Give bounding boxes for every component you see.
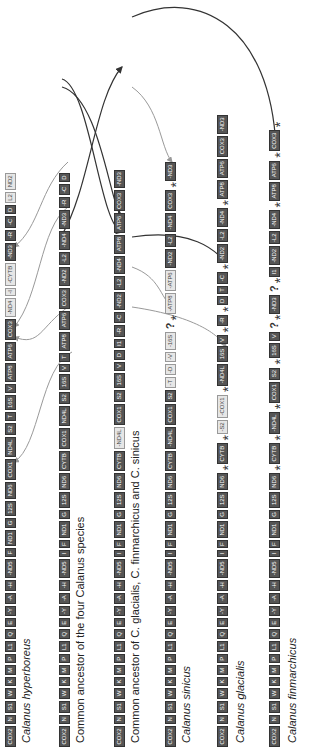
- gene-box: CYTB: [269, 443, 280, 464]
- gene-box: -ND4: [5, 298, 16, 317]
- gene-box: S2: [5, 423, 16, 435]
- species-label: Calanus sinicus: [180, 666, 192, 743]
- gene-box: -D: [165, 364, 176, 375]
- arrow-dark: [132, 235, 226, 262]
- gene-box: ATP8: [5, 363, 16, 382]
- gene-box: CYTB: [165, 451, 176, 472]
- asterisk-marker: *: [224, 435, 232, 440]
- gene-box: ND6: [269, 474, 280, 491]
- gene-box: -ND5: [59, 559, 70, 578]
- gene-box: S1: [165, 701, 176, 713]
- gene-box: -ND4: [165, 213, 176, 232]
- gene-box: -CYTB: [5, 263, 16, 286]
- gene-box: 16S: [114, 373, 125, 388]
- gene-box: -A: [269, 593, 280, 604]
- gene-row-glacialis: COX2NS1WKMPL1QE-Y-A-H-ND5IFND1G12SND6*CY…: [216, 113, 228, 747]
- gene-box: Q: [114, 629, 125, 639]
- gene-box: -ND4: [269, 210, 280, 229]
- arrow-dark: [132, 7, 276, 147]
- gene-box: -ND4: [217, 208, 228, 227]
- gene-box: V: [217, 336, 228, 345]
- unknown-marker: ?: [268, 322, 280, 329]
- gene-box: -ND2: [114, 292, 125, 311]
- gene-box: S2: [269, 368, 280, 380]
- gene-box: -ND3: [217, 115, 228, 134]
- gene-box: F: [114, 540, 125, 549]
- gene-box: G: [114, 510, 125, 520]
- gene-box: S1: [59, 701, 70, 713]
- gene-box: I: [269, 550, 280, 557]
- asterisk-marker: *: [224, 306, 232, 311]
- gene-box: S1: [114, 701, 125, 713]
- gene-box: -COX1: [217, 395, 228, 418]
- unknown-marker: ?: [268, 285, 280, 292]
- asterisk-marker: *: [224, 327, 232, 332]
- gene-box: P: [217, 654, 228, 663]
- asterisk-marker: *: [276, 435, 284, 440]
- gene-box: COX3: [165, 190, 176, 211]
- gene-box: S1: [269, 701, 280, 713]
- gene-box: ND1: [114, 521, 125, 538]
- gene-box: -H: [217, 580, 228, 591]
- gene-box: -ND5: [269, 559, 280, 578]
- gene-box: G: [5, 518, 16, 528]
- gene-box: M: [269, 665, 280, 675]
- gene-box: -A: [217, 593, 228, 604]
- gene-box: -C: [217, 273, 228, 284]
- gene-box: S2: [114, 390, 125, 402]
- gene-box: -H: [5, 580, 16, 591]
- gene-box: -C: [114, 312, 125, 323]
- gene-box: W: [59, 688, 70, 699]
- gene-box: COX2: [217, 726, 228, 747]
- asterisk-marker: *: [224, 465, 232, 470]
- gene-box: COX2: [165, 726, 176, 747]
- gene-box: ND6: [165, 474, 176, 491]
- gene-box: -A: [114, 593, 125, 604]
- gene-box: I: [114, 550, 125, 557]
- asterisk-marker: *: [172, 315, 180, 320]
- gene-box: COX1: [269, 382, 280, 403]
- gene-box: -L2: [217, 229, 228, 242]
- gene-box: E: [59, 618, 70, 627]
- gene-box: M: [59, 665, 70, 675]
- gene-box: I1: [269, 267, 280, 277]
- gene-box: COX2: [59, 726, 70, 747]
- gene-box: -H: [165, 580, 176, 591]
- gene-box: ND1: [165, 521, 176, 538]
- gene-box: P: [5, 654, 16, 663]
- gene-row-ancestor-four: COX2NS1WKMPL1QE-Y-A-H-ND5IFND1G12SND6CYT…: [58, 171, 70, 747]
- gene-box: -ND2: [269, 246, 280, 265]
- gene-box: P: [269, 654, 280, 663]
- gene-box: ND6: [114, 474, 125, 491]
- gene-box: L1: [217, 641, 228, 652]
- gene-box: T: [217, 286, 228, 295]
- gene-box: ND1: [5, 530, 16, 547]
- gene-box: Q: [5, 629, 16, 639]
- gene-box: 12S: [165, 492, 176, 507]
- asterisk-marker: *: [276, 315, 284, 320]
- gene-box: -ND4L: [114, 427, 125, 449]
- gene-box: G: [165, 510, 176, 520]
- gene-box: D: [59, 173, 70, 182]
- gene-box: K: [165, 677, 176, 686]
- gene-box: -I: [5, 288, 16, 296]
- asterisk-marker: *: [276, 359, 284, 364]
- gene-box: -C: [59, 184, 70, 195]
- gene-box: M: [165, 665, 176, 675]
- gene-box: 12S: [5, 501, 16, 516]
- gene-row-hyperboreus: COX2NS1WKMPL1QE-Y-A-H-ND5FND1G12SND6COX1…: [4, 171, 16, 747]
- gene-box: I: [59, 550, 70, 557]
- gene-box: W: [114, 688, 125, 699]
- gene-box: 12S: [269, 492, 280, 507]
- gene-box: V: [59, 364, 70, 373]
- species-label: Calanus glacialis: [234, 660, 246, 743]
- gene-box: -S2: [217, 420, 228, 434]
- gene-box: -ND2: [59, 267, 70, 286]
- gene-box: ND1: [217, 521, 228, 538]
- gene-box: N: [114, 715, 125, 724]
- unknown-marker: ?: [164, 323, 176, 330]
- gene-box: F: [269, 540, 280, 549]
- gene-box: G: [217, 510, 228, 520]
- gene-box: ND6: [59, 474, 70, 491]
- gene-box: -Y: [59, 606, 70, 617]
